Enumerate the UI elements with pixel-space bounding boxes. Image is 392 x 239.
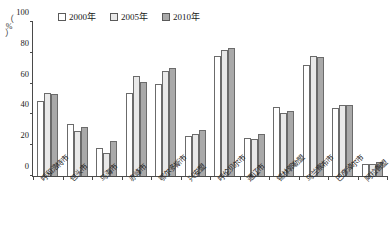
bar-呼伦贝尔市-2010年 xyxy=(228,48,235,176)
y-axis-tick-label: 80 xyxy=(7,38,29,48)
bar-chart: （ % ） 2000年2005年2010年 020406080100 呼和浩特市… xyxy=(0,0,392,239)
bar-group xyxy=(181,22,211,176)
bar-乌兰察布市-2005年 xyxy=(310,56,317,176)
legend-swatch-icon xyxy=(162,13,170,21)
bar-赤峰市-2005年 xyxy=(133,76,140,176)
bar-赤峰市-2000年 xyxy=(126,93,133,176)
bar-巴彦淖尔市-2000年 xyxy=(332,108,339,176)
legend-swatch-icon xyxy=(58,13,66,21)
x-axis-labels: 呼和浩特市包头市乌海市赤峰市鄂尔多斯市兴安盟呼伦贝尔市通辽市锡林郭勒盟乌兰察布市… xyxy=(32,178,386,236)
x-axis-tick-mark xyxy=(387,176,388,180)
bar-鄂尔多斯市-2000年 xyxy=(155,84,162,176)
y-axis-tick-label: 0 xyxy=(7,161,29,171)
y-axis-unit-label: （ % ） xyxy=(1,16,17,37)
bar-group xyxy=(33,22,63,176)
bar-group xyxy=(122,22,152,176)
bar-group xyxy=(328,22,358,176)
bar-锡林郭勒盟-2000年 xyxy=(273,107,280,176)
bar-group xyxy=(210,22,240,176)
bar-group xyxy=(240,22,270,176)
bar-呼伦贝尔市-2000年 xyxy=(214,56,221,176)
bar-groups xyxy=(33,22,387,176)
bar-group xyxy=(92,22,122,176)
y-axis-tick-label: 40 xyxy=(7,99,29,109)
bar-group xyxy=(63,22,93,176)
y-axis-tick-label: 100 xyxy=(7,7,29,17)
plot-area: 020406080100 xyxy=(32,22,387,177)
legend-swatch-icon xyxy=(110,13,118,21)
y-axis-tick-label: 60 xyxy=(7,69,29,79)
bar-group xyxy=(299,22,329,176)
y-unit-close-paren: ） xyxy=(1,30,17,37)
bar-呼和浩特市-2005年 xyxy=(44,93,51,176)
bar-呼和浩特市-2000年 xyxy=(37,101,44,176)
y-axis-tick-label: 20 xyxy=(7,130,29,140)
bar-group xyxy=(151,22,181,176)
bar-group xyxy=(358,22,388,176)
bar-包头市-2000年 xyxy=(67,124,74,176)
bar-呼伦贝尔市-2005年 xyxy=(221,50,228,176)
bar-鄂尔多斯市-2005年 xyxy=(162,71,169,176)
bar-group xyxy=(269,22,299,176)
